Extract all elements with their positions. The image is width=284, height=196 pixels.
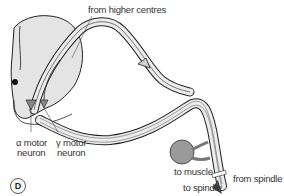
label-to-muscle: to muscle <box>174 166 213 177</box>
muscle-icon <box>170 140 194 164</box>
label-from-higher-centres: from higher centres <box>88 4 166 15</box>
label-gamma-motor-neuron-2: neuron <box>57 147 85 158</box>
panel-label-badge: D <box>10 178 26 194</box>
neuron-diagram <box>0 0 284 196</box>
label-from-spindle: from spindle <box>233 173 282 184</box>
label-to-spindle: to spindle <box>183 182 222 193</box>
central-canal-icon <box>12 79 18 85</box>
label-alpha-motor-neuron-2: neuron <box>17 147 45 158</box>
